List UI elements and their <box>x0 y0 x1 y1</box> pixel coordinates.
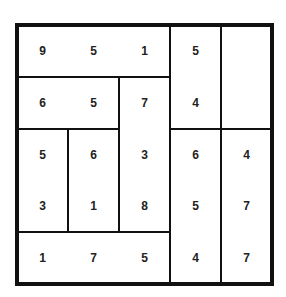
cell-r1-c4[interactable] <box>221 77 272 129</box>
cell-r3-c3[interactable]: 5 <box>170 180 221 232</box>
cell-r2-c2[interactable]: 3 <box>119 129 170 181</box>
cell-r1-c0[interactable]: 6 <box>17 77 68 129</box>
cell-r2-c4[interactable]: 4 <box>221 129 272 181</box>
cell-r3-c0[interactable]: 3 <box>17 180 68 232</box>
cell-r1-c2[interactable]: 7 <box>119 77 170 129</box>
cell-r0-c2[interactable]: 1 <box>119 25 170 77</box>
cell-r3-c2[interactable]: 8 <box>119 180 170 232</box>
cell-r4-c3[interactable]: 4 <box>170 232 221 284</box>
cell-r1-c3[interactable]: 4 <box>170 77 221 129</box>
cell-r4-c2[interactable]: 5 <box>119 232 170 284</box>
cell-r2-c3[interactable]: 6 <box>170 129 221 181</box>
cell-r0-c1[interactable]: 5 <box>68 25 119 77</box>
cell-r4-c1[interactable]: 7 <box>68 232 119 284</box>
cell-r3-c1[interactable]: 1 <box>68 180 119 232</box>
cell-r0-c4[interactable] <box>221 25 272 77</box>
cell-r4-c0[interactable]: 1 <box>17 232 68 284</box>
cell-r4-c4[interactable]: 7 <box>221 232 272 284</box>
cell-r2-c0[interactable]: 5 <box>17 129 68 181</box>
cell-r0-c3[interactable]: 5 <box>170 25 221 77</box>
puzzle-board: 95156574563643185717547 <box>17 25 272 284</box>
cell-r0-c0[interactable]: 9 <box>17 25 68 77</box>
cell-r3-c4[interactable]: 7 <box>221 180 272 232</box>
cell-r2-c1[interactable]: 6 <box>68 129 119 181</box>
cell-r1-c1[interactable]: 5 <box>68 77 119 129</box>
